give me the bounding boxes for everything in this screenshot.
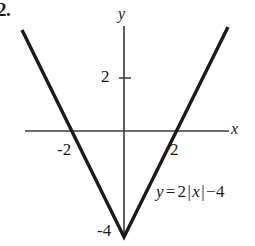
equation-label: y = 2|x|−4 xyxy=(156,183,225,200)
equation-equals: = xyxy=(166,182,176,201)
x-tick-label-2: 2 xyxy=(170,141,179,158)
equation-coefficient: 2 xyxy=(178,182,187,201)
x-tick-label-negative-2: -2 xyxy=(57,141,71,158)
problem-number: 2. xyxy=(0,0,10,19)
x-axis-label: x xyxy=(231,121,238,137)
equation-constant: 4 xyxy=(216,182,225,201)
coordinate-plot xyxy=(0,0,255,246)
equation-lhs: y xyxy=(156,182,164,201)
vertex-label-negative-4: -4 xyxy=(97,222,111,239)
y-axis-label: y xyxy=(118,6,125,22)
equation-minus: − xyxy=(206,182,216,201)
absolute-value-curve xyxy=(22,27,228,237)
graph-figure: 2. y x 2 -2 2 -4 y = 2|x|−4 xyxy=(0,0,255,246)
y-tick-label-2: 2 xyxy=(101,68,110,85)
